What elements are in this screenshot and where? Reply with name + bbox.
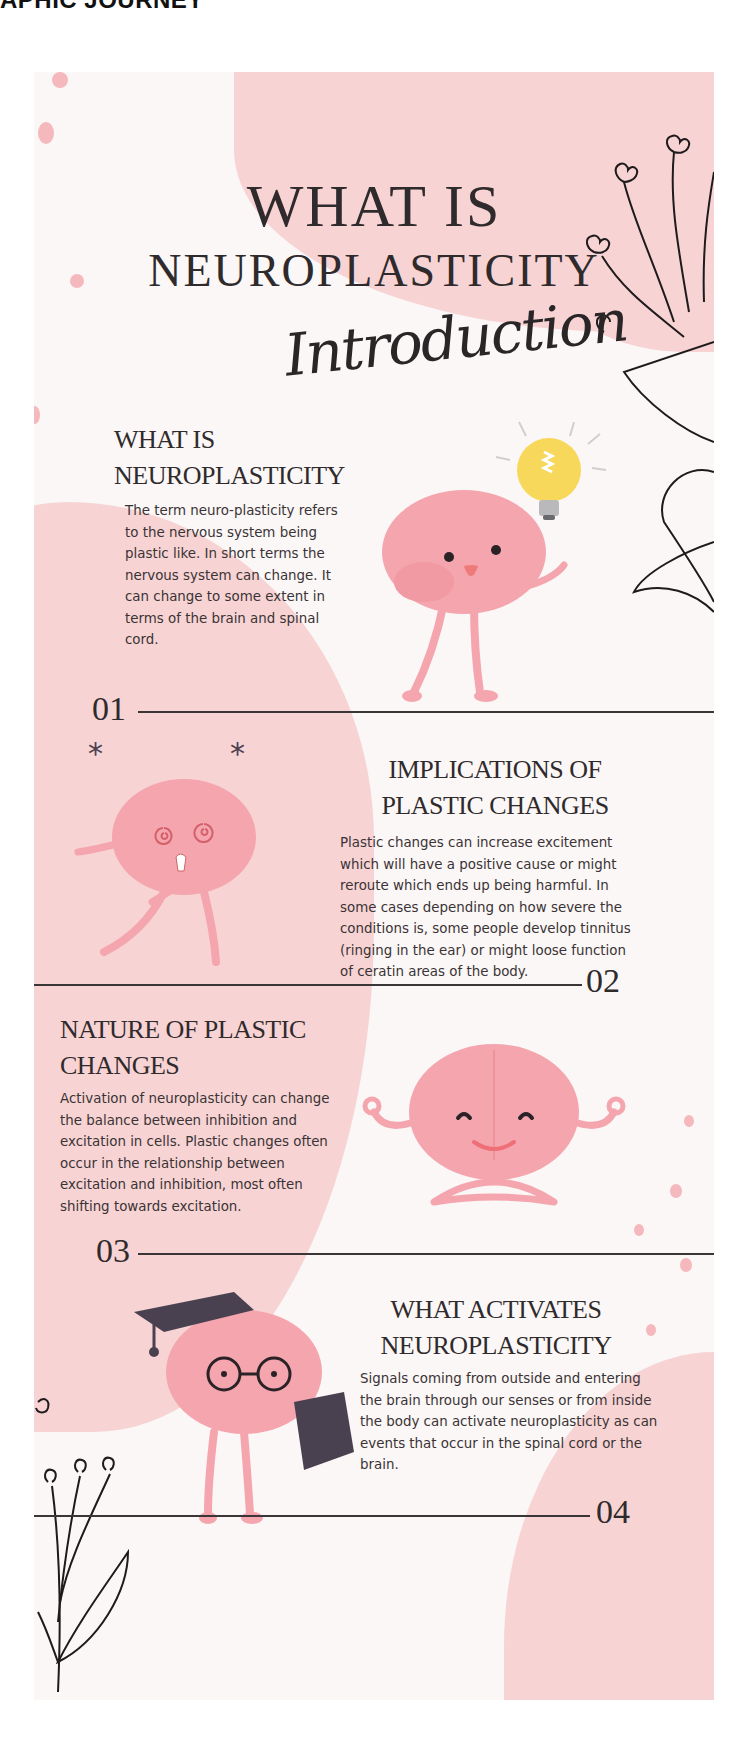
graduate-brain-with-book-icon: [134, 1282, 374, 1532]
dot-deco: [680, 1258, 692, 1272]
section-divider: [138, 1253, 714, 1255]
header-cut-text: APHIC JOURNEY: [0, 0, 204, 14]
section-4-title-line1: WHAT ACTIVATES: [374, 1292, 618, 1328]
dot-deco: [34, 406, 40, 424]
section-4-title-line2: NEUROPLASTICITY: [374, 1328, 618, 1364]
section-2-body: Plastic changes can increase excitement …: [340, 832, 640, 983]
section-1-body: The term neuro-plasticity refers to the …: [125, 500, 345, 651]
section-4-body: Signals coming from outside and entering…: [360, 1368, 660, 1476]
svg-text:*: *: [230, 736, 245, 771]
section-1-title-line1: WHAT IS: [114, 422, 345, 458]
section-2-title: IMPLICATIONS OF PLASTIC CHANGES: [370, 752, 620, 824]
section-divider: [34, 984, 582, 986]
meditating-brain-icon: [354, 1032, 634, 1222]
dot-deco: [670, 1184, 682, 1198]
dizzy-brain-icon: * *: [64, 732, 284, 982]
section-number-02: 02: [586, 962, 620, 1000]
dot-deco: [38, 122, 54, 144]
dot-deco: [684, 1115, 694, 1127]
section-3-title: NATURE OF PLASTIC CHANGES: [60, 1012, 306, 1084]
section-3-title-line1: NATURE OF PLASTIC: [60, 1012, 306, 1048]
section-2-title-line1: IMPLICATIONS OF: [370, 752, 620, 788]
section-4-title: WHAT ACTIVATES NEUROPLASTICITY: [374, 1292, 618, 1364]
section-number-01: 01: [92, 690, 126, 728]
section-divider: [138, 711, 714, 713]
infographic-poster: WHAT IS NEUROPLASTICITY Introduction WHA…: [34, 72, 714, 1700]
section-3-body: Activation of neuroplasticity can change…: [60, 1088, 340, 1217]
section-1-title: WHAT IS NEUROPLASTICITY: [114, 422, 345, 494]
section-number-03: 03: [96, 1232, 130, 1270]
page-title-line1: WHAT IS: [34, 172, 714, 241]
section-divider: [34, 1515, 590, 1517]
section-number-04: 04: [596, 1493, 630, 1531]
section-3-title-line2: CHANGES: [60, 1048, 306, 1084]
leaf-line-art-icon: [34, 1362, 148, 1700]
dot-deco: [646, 1324, 656, 1336]
svg-text:*: *: [88, 736, 103, 771]
dot-deco: [634, 1224, 644, 1236]
section-1-title-line2: NEUROPLASTICITY: [114, 458, 345, 494]
brain-with-lightbulb-icon: [374, 422, 614, 712]
dot-deco: [52, 72, 68, 88]
section-2-title-line2: PLASTIC CHANGES: [370, 788, 620, 824]
